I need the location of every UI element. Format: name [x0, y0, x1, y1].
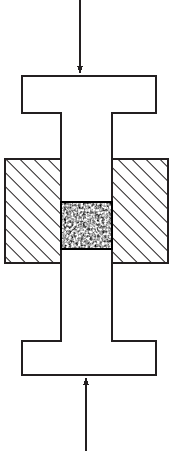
figure-canvas [0, 0, 173, 451]
right-platen-hatch-fill [112, 159, 168, 263]
granular-core [59, 200, 114, 251]
compression-test-diagram [0, 0, 173, 451]
left-platen-hatch-fill [5, 159, 61, 263]
core-speckle-texture [59, 200, 114, 251]
left-platen-block [5, 159, 61, 263]
right-platen-block [112, 159, 168, 263]
